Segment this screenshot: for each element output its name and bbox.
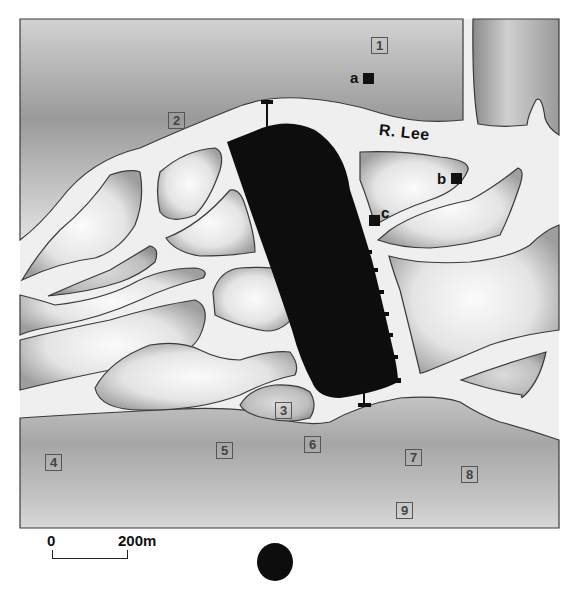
scale-bar — [52, 550, 128, 559]
site-letter-c: c — [381, 205, 389, 220]
site-label-4: 4 — [45, 454, 62, 471]
north-east-land — [473, 19, 559, 135]
site-label-3: 3 — [275, 402, 292, 419]
site-marker-a — [363, 73, 374, 84]
site-label-6: 6 — [304, 436, 321, 453]
site-label-2: 2 — [168, 112, 185, 129]
site-label-5: 5 — [216, 442, 233, 459]
scale-end-label: 200m — [118, 532, 156, 549]
site-label-9: 9 — [396, 502, 413, 519]
site-marker-b — [451, 173, 462, 184]
site-marker-c — [369, 215, 380, 226]
scale-start-label: 0 — [47, 532, 55, 549]
map-canvas — [0, 0, 581, 601]
site-label-1: 1 — [371, 37, 388, 54]
site-letter-a: a — [350, 70, 358, 85]
site-letter-b: b — [437, 171, 446, 186]
site-label-7: 7 — [405, 449, 422, 466]
legend-black-dot — [257, 543, 293, 581]
site-label-8: 8 — [461, 466, 478, 483]
